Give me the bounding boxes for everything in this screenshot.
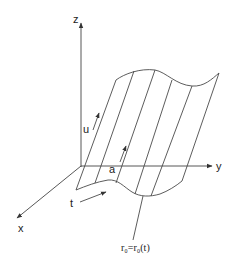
ruled-surface-diagram: z y x u a t r₀=r₀(t) xyxy=(0,0,235,259)
a-label: a xyxy=(109,163,116,175)
a-direction-arrow xyxy=(120,146,126,162)
t-direction-arrow xyxy=(80,192,106,202)
x-axis xyxy=(17,166,81,218)
u-direction-arrow xyxy=(93,113,99,130)
t-label: t xyxy=(70,197,73,209)
directrix-pointer xyxy=(133,196,143,240)
y-axis-label: y xyxy=(216,160,222,172)
directrix-label: r₀=r₀(t) xyxy=(121,242,150,254)
ruling xyxy=(135,80,172,194)
axes xyxy=(17,23,212,218)
x-axis-label: x xyxy=(18,222,24,234)
ruling-right-edge xyxy=(182,73,219,181)
u-label: u xyxy=(83,123,89,135)
z-axis-label: z xyxy=(73,13,79,25)
bottom-curve xyxy=(76,180,182,196)
ruling xyxy=(151,86,192,196)
surface xyxy=(76,70,219,196)
